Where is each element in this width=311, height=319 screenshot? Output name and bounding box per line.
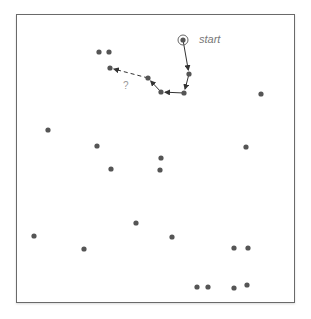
data-point	[245, 245, 250, 250]
data-point	[231, 245, 236, 250]
data-point	[194, 284, 199, 289]
data-point	[108, 166, 113, 171]
data-point	[145, 75, 150, 80]
unknown-label: ?	[123, 80, 129, 91]
data-point	[186, 71, 191, 76]
data-point	[258, 91, 263, 96]
data-point	[107, 65, 112, 70]
data-point	[31, 233, 36, 238]
data-point	[243, 144, 248, 149]
data-point	[45, 127, 50, 132]
path-edge	[165, 92, 184, 93]
data-point	[244, 282, 249, 287]
data-point	[96, 49, 101, 54]
data-point	[158, 155, 163, 160]
start-marker-icon	[178, 35, 188, 45]
data-point	[158, 89, 163, 94]
data-points	[31, 49, 263, 290]
data-point	[231, 285, 236, 290]
data-point	[133, 220, 138, 225]
dashed-edge	[114, 69, 148, 78]
data-point	[106, 49, 111, 54]
data-point	[94, 143, 99, 148]
path-diagram	[0, 0, 311, 319]
data-point	[169, 234, 174, 239]
data-point	[157, 167, 162, 172]
start-label: start	[199, 33, 220, 45]
data-point	[81, 246, 86, 251]
data-point	[205, 284, 210, 289]
data-point	[181, 90, 186, 95]
